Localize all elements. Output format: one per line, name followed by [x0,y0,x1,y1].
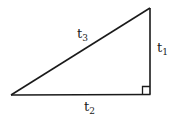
right-angle-marker [143,87,151,95]
horizontal-leg-label: t2 [84,99,95,116]
hypotenuse-label: t3 [77,26,88,43]
hypotenuse-edge [11,8,150,95]
right-triangle-diagram: t3 t1 t2 [0,0,174,122]
triangle [11,8,151,95]
vertical-leg-label: t1 [157,40,168,57]
horizontal-leg-edge [11,95,151,96]
